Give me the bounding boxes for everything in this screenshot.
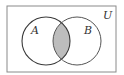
set-b-label: B — [83, 24, 92, 37]
venn-diagram: A B U — [0, 0, 124, 75]
universe-label: U — [103, 9, 113, 22]
set-a-label: A — [30, 24, 39, 37]
